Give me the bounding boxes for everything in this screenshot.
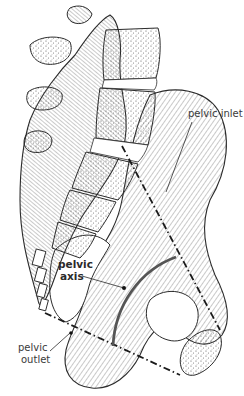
pelvic-axis-dot — [122, 286, 126, 290]
pelvic-inlet-label: pelvic inlet — [188, 108, 243, 119]
pelvic-axis-label-line2: axis — [60, 271, 84, 282]
pelvic-outlet-dot — [69, 331, 73, 335]
pelvis-diagram: pelvic inlet pelvic axis pelvic outlet — [0, 0, 244, 396]
pelvis-illustration — [0, 0, 244, 396]
pelvic-outlet-label-line2: outlet — [21, 354, 50, 365]
obturator-foramen — [146, 291, 198, 341]
pelvic-outlet-label-line1: pelvic — [18, 342, 47, 353]
pelvic-axis-label-line1: pelvic — [58, 259, 93, 270]
